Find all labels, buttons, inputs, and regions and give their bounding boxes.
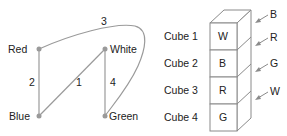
side-arrow-2: R: [255, 31, 278, 46]
cube-3-front-letter: R: [219, 84, 227, 96]
arrowhead-icon: [255, 95, 261, 100]
cube-2-front-letter: B: [219, 57, 226, 69]
side-label-3: G: [270, 57, 278, 69]
node-white: [103, 47, 108, 52]
node-label-blue: Blue: [9, 110, 30, 122]
edge-label-1: 1: [76, 76, 82, 88]
side-label-2: R: [270, 31, 278, 43]
side-arrow-1: B: [255, 8, 277, 23]
cube-4-front-letter: G: [219, 111, 227, 123]
graph: 1 2 3 4 Red White Blue Green: [8, 15, 145, 122]
edge-label-2: 2: [29, 76, 35, 88]
cube-stack: W B R G Cube 1 Cube 2 Cube 3 Cube 4 B R …: [164, 8, 280, 131]
cube-1-front-letter: W: [218, 30, 228, 42]
side-arrow-4: W: [255, 85, 280, 100]
side-arrow-3: G: [255, 57, 278, 72]
node-label-green: Green: [109, 110, 138, 122]
node-label-white: White: [110, 43, 137, 55]
node-blue: [37, 114, 42, 119]
diagram-canvas: 1 2 3 4 Red White Blue Green W B R G Cub…: [0, 0, 287, 136]
cube-3-label: Cube 3: [164, 84, 198, 96]
edge-label-3: 3: [101, 15, 107, 27]
node-green: [103, 114, 108, 119]
side-label-4: W: [270, 85, 280, 97]
node-label-red: Red: [8, 43, 27, 55]
edge-label-4: 4: [110, 76, 116, 88]
arrowhead-icon: [255, 18, 261, 23]
cube-4-label: Cube 4: [164, 111, 198, 123]
node-red: [37, 47, 42, 52]
edge-1-blue-white: [39, 49, 105, 116]
edge-3-red-green-curve: [39, 25, 145, 116]
side-label-1: B: [270, 8, 277, 20]
arrowhead-icon: [255, 41, 261, 46]
cube-2-label: Cube 2: [164, 57, 198, 69]
arrowhead-icon: [255, 67, 261, 72]
cube-1-label: Cube 1: [164, 30, 198, 42]
